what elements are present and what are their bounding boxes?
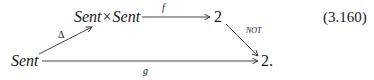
node-two-bottom: 2. [261, 53, 273, 69]
arrow-delta [39, 27, 92, 54]
label-g: g [143, 66, 148, 76]
product-right-factor: Sent [113, 8, 141, 25]
label-not: NOT [246, 27, 262, 35]
label-delta: Δ [58, 30, 64, 40]
equation-number: (3.160) [323, 10, 367, 25]
arrows-layer [0, 0, 374, 80]
times-symbol: × [102, 8, 113, 25]
label-f: f [162, 3, 165, 13]
node-sent-product: Sent×Sent [74, 9, 140, 25]
node-two-top: 2 [214, 9, 222, 25]
product-left-factor: Sent [74, 8, 102, 25]
node-sent: Sent [11, 53, 39, 69]
